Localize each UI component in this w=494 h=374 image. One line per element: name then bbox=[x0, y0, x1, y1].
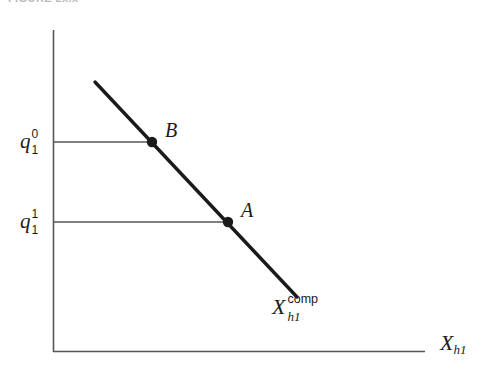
y-tick-q1-subscript: 1 bbox=[32, 224, 39, 236]
figure-container: FIGURE 2x.x q01 q11 B A Xcomph1 Xh1 bbox=[0, 0, 494, 374]
compensated-demand-curve bbox=[95, 82, 297, 297]
y-tick-q1-superscript: 1 bbox=[32, 208, 39, 220]
y-tick-label-q1: q11 bbox=[20, 211, 31, 232]
curve-label: Xcomph1 bbox=[272, 294, 285, 320]
x-axis-label-subscript: h1 bbox=[453, 342, 466, 357]
y-tick-q0-superscript: 0 bbox=[32, 128, 39, 140]
point-marker-b bbox=[147, 137, 157, 147]
plot-canvas bbox=[0, 0, 494, 374]
point-label-a: A bbox=[241, 199, 253, 222]
y-tick-q0-subscript: 1 bbox=[32, 144, 39, 156]
y-tick-label-q0: q01 bbox=[20, 131, 31, 152]
curve-label-base: X bbox=[272, 294, 285, 319]
point-marker-a bbox=[223, 217, 233, 227]
x-axis-label-base: X bbox=[440, 330, 453, 355]
y-tick-q0-base: q bbox=[20, 129, 31, 153]
x-axis-label: Xh1 bbox=[440, 330, 466, 356]
curve-label-subscript: h1 bbox=[287, 309, 300, 325]
y-tick-q1-base: q bbox=[20, 209, 31, 233]
point-label-b: B bbox=[165, 119, 177, 142]
curve-label-superscript: comp bbox=[287, 292, 318, 306]
